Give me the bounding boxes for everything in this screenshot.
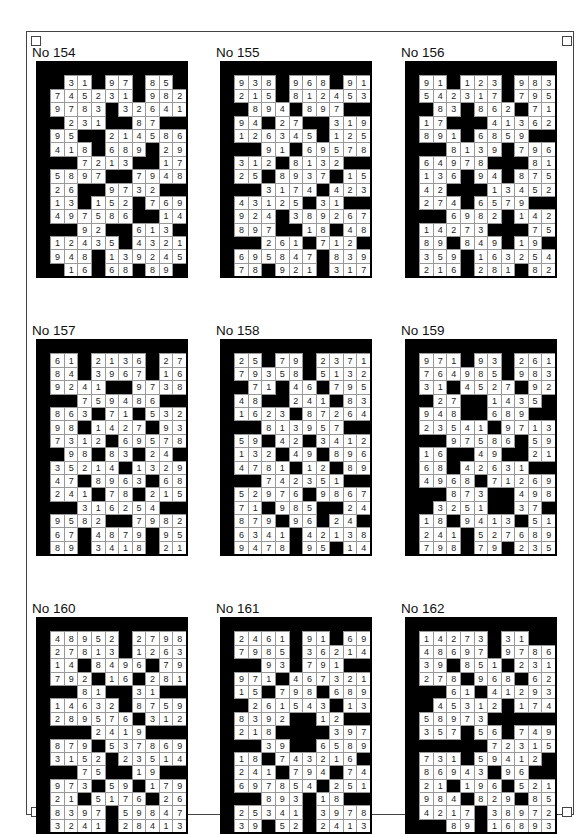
black-cell — [262, 263, 276, 277]
number-cell: 2 — [515, 685, 529, 698]
number-cell: 6 — [105, 143, 119, 156]
grid-row: 988324 — [37, 448, 187, 461]
number-cell: 4 — [51, 143, 65, 156]
black-cell — [501, 76, 515, 89]
number-cell: 8 — [119, 143, 133, 156]
number-cell: 6 — [357, 448, 371, 461]
number-cell: 1 — [159, 712, 173, 725]
grid-row: 496871269 — [406, 474, 556, 487]
number-cell: 4 — [64, 89, 78, 102]
number-cell: 3 — [132, 752, 146, 765]
grid-row: 324128413 — [37, 819, 187, 833]
number-cell: 3 — [91, 699, 105, 712]
number-cell: 4 — [316, 766, 330, 779]
black-cell — [289, 739, 303, 752]
black-cell — [316, 183, 330, 196]
number-cell: 9 — [51, 779, 65, 792]
black-cell — [262, 170, 276, 183]
black-cell — [275, 381, 289, 394]
black-cell — [91, 250, 105, 263]
number-cell: 4 — [447, 793, 461, 806]
number-cell: 5 — [159, 699, 173, 712]
number-cell: 3 — [78, 779, 92, 792]
black-cell — [433, 434, 447, 447]
number-cell: 8 — [91, 659, 105, 672]
number-cell: 4 — [262, 528, 276, 541]
number-cell: 7 — [51, 89, 65, 102]
black-cell — [91, 779, 105, 792]
black-cell — [159, 685, 173, 698]
number-cell: 5 — [91, 766, 105, 779]
number-cell: 7 — [515, 726, 529, 739]
number-cell: 7 — [420, 367, 434, 380]
number-cell: 3 — [501, 515, 515, 528]
grid-row: 948139245 — [37, 250, 187, 263]
grid-row: 879537869 — [37, 739, 187, 752]
number-cell: 4 — [159, 250, 173, 263]
number-cell: 1 — [433, 779, 447, 792]
number-cell: 9 — [343, 448, 357, 461]
number-cell: 9 — [528, 381, 542, 394]
black-cell — [105, 819, 119, 833]
number-cell: 9 — [159, 421, 173, 434]
black-cell — [275, 76, 289, 89]
number-cell: 1 — [515, 237, 529, 250]
grid-row: 1427331 — [406, 632, 556, 645]
grid-row: 13152769 — [37, 196, 187, 209]
number-cell: 2 — [474, 263, 488, 277]
puzzle-157: No 1576121362784396716924197387594868637… — [36, 323, 188, 556]
corner-ornament-top-right — [562, 36, 572, 46]
black-cell — [316, 515, 330, 528]
number-cell: 1 — [173, 103, 187, 116]
number-cell: 1 — [91, 196, 105, 209]
black-cell — [303, 196, 317, 209]
black-cell — [275, 515, 289, 528]
black-cell — [316, 448, 330, 461]
number-cell: 4 — [488, 685, 502, 698]
corner-ornament-bottom-right — [562, 807, 572, 817]
number-cell: 1 — [343, 116, 357, 129]
number-cell: 3 — [316, 699, 330, 712]
number-cell: 9 — [420, 354, 434, 367]
number-cell: 8 — [64, 632, 78, 645]
number-cell: 6 — [64, 407, 78, 420]
number-cell: 9 — [173, 196, 187, 209]
number-cell: 9 — [248, 250, 262, 263]
number-cell: 4 — [262, 210, 276, 223]
number-cell: 2 — [159, 541, 173, 555]
number-cell: 8 — [528, 76, 542, 89]
black-cell — [303, 793, 317, 806]
number-cell: 8 — [262, 421, 276, 434]
number-cell: 2 — [289, 394, 303, 407]
number-cell: 8 — [173, 170, 187, 183]
black-cell — [78, 528, 92, 541]
number-cell: 9 — [248, 223, 262, 236]
grid-row: 58973 — [406, 712, 556, 725]
number-cell: 6 — [488, 779, 502, 792]
number-cell: 9 — [357, 685, 371, 698]
number-cell: 4 — [248, 632, 262, 645]
number-cell: 6 — [330, 685, 344, 698]
grid-row: 798536214 — [221, 645, 371, 658]
grid-row: 924389267 — [221, 210, 371, 223]
number-cell: 5 — [64, 129, 78, 142]
number-cell: 8 — [357, 528, 371, 541]
number-cell: 8 — [515, 819, 529, 833]
number-cell: 9 — [248, 367, 262, 380]
number-cell: 3 — [119, 103, 133, 116]
number-cell: 7 — [275, 488, 289, 501]
black-cell — [248, 739, 262, 752]
black-cell — [420, 434, 434, 447]
black-cell — [488, 421, 502, 434]
black-cell — [119, 685, 133, 698]
number-cell: 8 — [289, 501, 303, 514]
number-cell: 1 — [64, 354, 78, 367]
number-cell: 7 — [105, 712, 119, 725]
number-cell: 5 — [542, 170, 556, 183]
number-cell: 3 — [501, 461, 515, 474]
black-cell — [460, 793, 474, 806]
number-cell: 4 — [343, 223, 357, 236]
number-cell: 1 — [330, 367, 344, 380]
number-cell: 2 — [64, 819, 78, 833]
black-cell — [105, 434, 119, 447]
